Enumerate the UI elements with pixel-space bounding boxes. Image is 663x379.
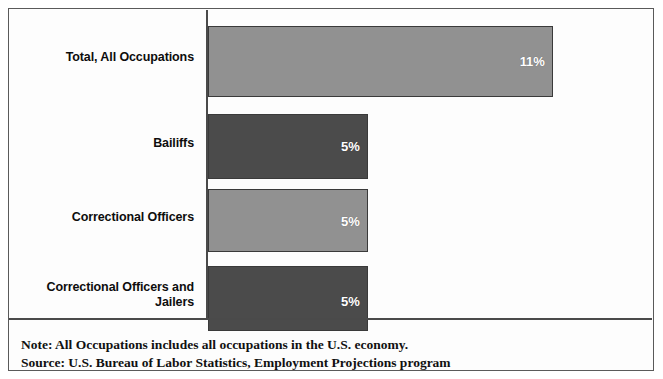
category-label-line1: Total, All Occupations [66,50,194,64]
chart-row: Total, All Occupations 11% [9,26,653,97]
chart-row: Correctional Officers 5% [9,189,653,252]
bar-value-label: 5% [341,295,359,308]
category-label-line1: Bailiffs [153,136,194,150]
bar-correctional-officers[interactable]: 5% [208,189,368,252]
category-label-line1: Correctional Officers and [46,280,194,294]
bar-bailiffs[interactable]: 5% [208,114,368,179]
bar-value-label: 11% [520,55,545,68]
category-label: Bailiffs [9,136,194,151]
employment-projections-chart-figure: Total, All Occupations 11% Bailiffs 5% C… [0,0,663,379]
bar-value-label: 5% [341,215,359,228]
category-label: Correctional Officers [9,210,194,225]
bar-value-label: 5% [341,140,359,153]
bar-total-all-occupations[interactable]: 11% [208,26,553,97]
plot-notes-separator [9,318,652,320]
chart-row: Correctional Officers and Jailers 5% [9,266,653,331]
category-label-line1: Correctional Officers [72,210,194,224]
plot-area: Total, All Occupations 11% Bailiffs 5% C… [9,9,653,318]
bar-correctional-officers-and-jailers[interactable]: 5% [208,266,368,331]
category-label: Correctional Officers and Jailers [9,280,194,310]
category-label: Total, All Occupations [9,50,194,65]
chart-row: Bailiffs 5% [9,114,653,179]
note-text: Note: All Occupations includes all occup… [21,336,641,354]
source-text: Source: U.S. Bureau of Labor Statistics,… [21,354,641,372]
category-label-line2: Jailers [155,295,194,309]
chart-notes: Note: All Occupations includes all occup… [21,336,641,371]
chart-frame: Total, All Occupations 11% Bailiffs 5% C… [8,8,654,371]
